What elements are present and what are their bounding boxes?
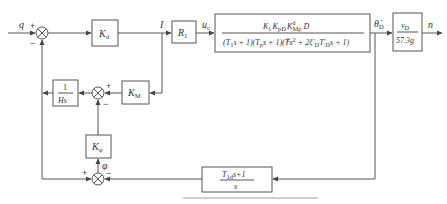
output-n-label: n xyxy=(428,19,433,30)
current-i-label: I xyxy=(159,19,164,30)
r1-block: R1 xyxy=(172,21,196,43)
sum3-minus-sign: − xyxy=(106,168,111,178)
uc-label: uc xyxy=(202,19,210,31)
svg-text:s: s xyxy=(234,182,237,191)
sum1-minus-sign: − xyxy=(30,38,35,48)
svg-text:57.3g: 57.3g xyxy=(396,36,414,45)
kd-block: Kd xyxy=(92,20,118,46)
sum2-plus-sign: + xyxy=(106,81,111,91)
sum2-minus-sign: − xyxy=(103,99,108,109)
plant-denominator: (T1s + 1)(Tps + 1)(T2s2 + 2ξ′DT′Ds + 1) xyxy=(223,36,350,48)
block-diagram: q + − Kd I R1 uc K1KpDKdMpD (T1s + 1)(Tp… xyxy=(0,0,447,204)
theta-dot-d-label: θ̇D xyxy=(374,18,384,30)
current-branch-line xyxy=(150,33,162,93)
figure-caption-illegible xyxy=(183,197,318,199)
integrator-block: 1 Hs xyxy=(53,80,78,106)
km-block: KM xyxy=(122,81,149,104)
svg-text:Hs: Hs xyxy=(57,96,67,105)
sum-junction-3 xyxy=(92,173,104,185)
sum-junction-1 xyxy=(36,27,48,39)
sum3-plus-sign: + xyxy=(82,168,87,178)
sum-junction-2 xyxy=(92,87,104,99)
feedback-block: T1ds+1 s xyxy=(202,167,272,192)
svg-text:T1ds+1: T1ds+1 xyxy=(222,170,245,180)
theta-feedback-line xyxy=(273,33,375,179)
sum1-plus-sign: + xyxy=(30,21,35,31)
kphi-block: Kφ xyxy=(86,135,111,158)
svg-text:1: 1 xyxy=(63,83,67,92)
input-q-label: q xyxy=(19,19,24,30)
gain-block: vD 57.3g xyxy=(393,13,422,51)
plant-transfer-function-block: K1KpDKdMpD (T1s + 1)(Tps + 1)(T2s2 + 2ξ′… xyxy=(215,14,370,52)
